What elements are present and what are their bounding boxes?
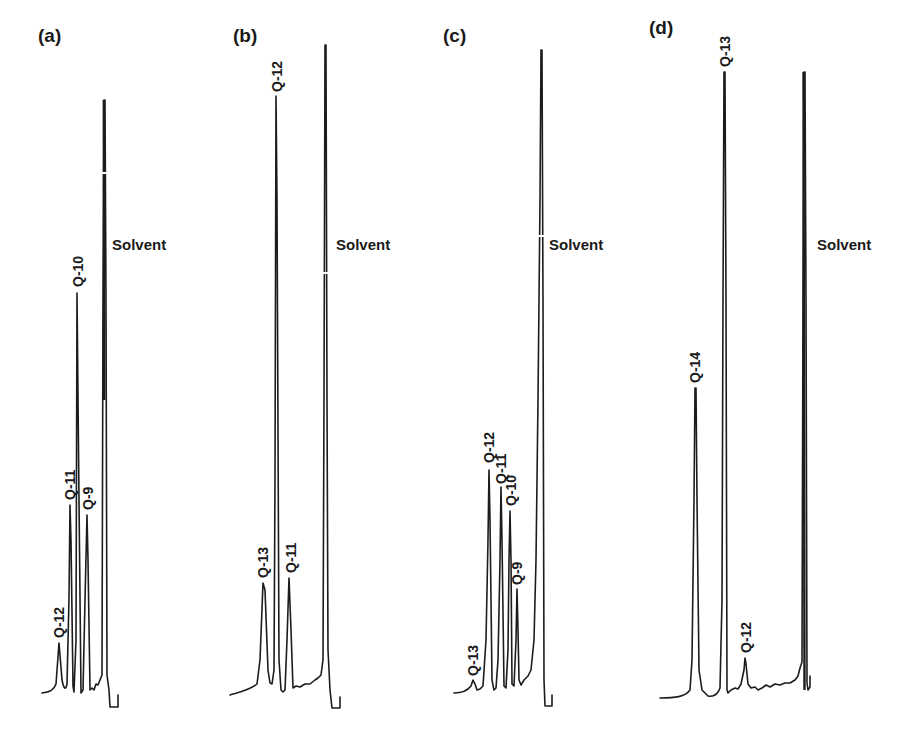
panel-d-label: (d): [649, 17, 673, 38]
peak-label-q13: Q-13: [465, 645, 481, 676]
peak-label-q13: Q-13: [255, 547, 271, 578]
peak-label-q12: Q-12: [269, 61, 285, 92]
peak-label-q12: Q-12: [738, 622, 754, 653]
peak-label-q10: Q-10: [70, 256, 86, 287]
panel-c-trace: [454, 50, 552, 706]
peak-label-q12: Q-12: [51, 607, 67, 638]
peak-label-q9: Q-9: [509, 561, 525, 585]
panel-a: (a) Q-12 Q-11 Q-10 Q-9 Solvent: [38, 25, 166, 707]
panel-b-trace: [230, 45, 340, 708]
solvent-label: Solvent: [336, 236, 390, 253]
peak-label-q14: Q-14: [687, 352, 703, 383]
panel-d: (d) Q-14 Q-13 Q-12 Solvent: [649, 17, 871, 698]
chromatogram-figure: (a) Q-12 Q-11 Q-10 Q-9 Solvent (b) Q-13 …: [0, 0, 913, 730]
panel-b-label: (b): [233, 25, 257, 46]
solvent-label: Solvent: [549, 236, 603, 253]
panel-d-solvent-peak: [804, 72, 805, 690]
panel-c-label: (c): [443, 25, 466, 46]
peak-label-q9: Q-9: [80, 486, 96, 510]
panel-d-trace: [660, 72, 810, 698]
panel-c: (c) Q-13 Q-12 Q-11 Q-10 Q-9 Solvent: [443, 25, 603, 706]
panel-b: (b) Q-13 Q-12 Q-11 Solvent: [230, 25, 390, 708]
solvent-label: Solvent: [817, 236, 871, 253]
peak-label-q13: Q-13: [717, 36, 733, 67]
peak-label-q11: Q-11: [283, 542, 299, 573]
panel-a-label: (a): [38, 25, 61, 46]
peak-label-q11: Q-11: [62, 469, 78, 500]
solvent-label: Solvent: [112, 236, 166, 253]
peak-label-q10: Q-10: [503, 475, 519, 506]
